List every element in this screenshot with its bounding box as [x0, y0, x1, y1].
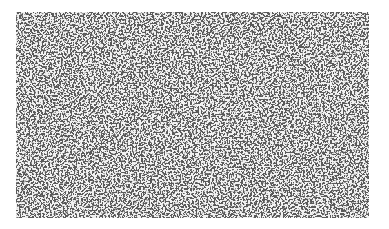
speckle-texture-image — [16, 12, 369, 218]
texture-fill — [16, 12, 369, 218]
